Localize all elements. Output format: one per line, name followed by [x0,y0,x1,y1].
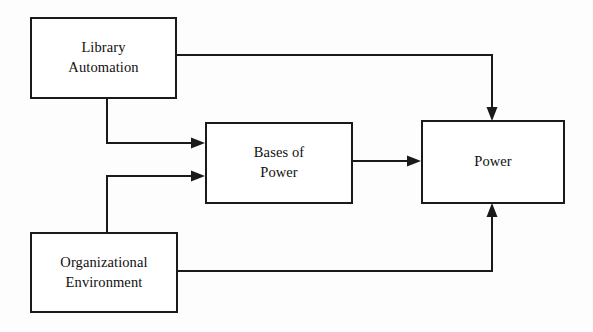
arrowhead-down-icon [487,107,498,121]
edge-bases-of-power-to-power [353,156,421,167]
node-power-label: Power [474,152,512,172]
arrowhead-up-icon [487,203,498,217]
arrowhead-right-icon [191,171,205,182]
node-bases-of-power[interactable]: Bases of Power [205,122,353,204]
edge-library-automation-to-power [177,55,498,121]
node-power[interactable]: Power [421,120,565,204]
diagram-canvas: Library Automation Bases of Power Power … [0,0,593,332]
edge-line [107,99,196,143]
node-library-automation[interactable]: Library Automation [30,17,177,99]
arrowhead-right-icon [407,156,421,167]
edge-organizational-environment-to-bases-of-power [107,171,205,233]
arrowhead-right-icon [191,138,205,149]
edge-organizational-environment-to-power [178,203,498,271]
edge-library-automation-to-bases-of-power [107,99,205,149]
edge-line [107,176,196,232]
node-organizational-environment-label: Organizational Environment [60,253,147,292]
edge-line [177,55,492,112]
node-bases-of-power-label: Bases of Power [254,143,304,182]
node-library-automation-label: Library Automation [68,38,138,77]
node-organizational-environment[interactable]: Organizational Environment [30,232,178,313]
edge-line [178,212,492,271]
